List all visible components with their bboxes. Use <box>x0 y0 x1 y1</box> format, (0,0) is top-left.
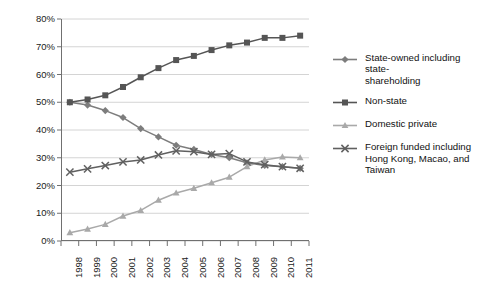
data-point-square <box>262 35 268 41</box>
data-point-diamond <box>341 56 348 63</box>
y-tick-label: 20% <box>36 181 55 191</box>
y-tick-label: 10% <box>36 208 55 218</box>
y-tick-label: 50% <box>36 97 55 107</box>
x-tick-label: 2003 <box>162 257 172 278</box>
x-tick-label: 2009 <box>269 257 279 278</box>
x-tick-label: 2000 <box>109 257 119 278</box>
y-tick-label: 60% <box>36 70 55 80</box>
y-tick-label: 30% <box>36 153 55 163</box>
x-tick-label: 2001 <box>127 257 137 278</box>
data-point-square <box>244 40 250 46</box>
legend-key-square-icon <box>332 96 358 109</box>
x-tick-label: 1999 <box>92 257 102 278</box>
data-point-diamond <box>119 114 126 121</box>
legend-label: Domestic private <box>365 118 437 129</box>
data-point-square <box>342 100 348 106</box>
data-point-square <box>102 92 108 98</box>
series-1 <box>67 33 303 106</box>
legend-label: Non-state <box>365 95 407 106</box>
legend-item-non-state: Non-state <box>332 95 484 109</box>
data-point-square <box>191 53 197 59</box>
data-point-square <box>209 47 215 53</box>
legend-label: State-owned including state- shareholdin… <box>365 52 484 86</box>
y-tick-label: 70% <box>36 42 55 52</box>
data-point-square <box>155 65 161 71</box>
x-tick-label: 2002 <box>145 257 155 278</box>
data-point-square <box>279 35 285 41</box>
x-tick-label: 2011 <box>304 258 314 278</box>
x-tick-label: 2007 <box>233 257 243 278</box>
data-point-square <box>85 96 91 102</box>
data-point-diamond <box>137 125 144 132</box>
legend-key-triangle-icon <box>332 119 358 132</box>
y-tick-label: 0% <box>41 236 55 246</box>
data-point-square <box>297 33 303 39</box>
data-point-diamond <box>84 101 91 108</box>
x-tick-label: 1998 <box>74 257 84 278</box>
x-tick-label: 2004 <box>180 257 190 278</box>
x-tick-label: 2006 <box>216 257 226 278</box>
series-lines <box>61 19 309 241</box>
x-tick-label: 2008 <box>251 257 261 278</box>
legend-item-state-owned: State-owned including state- shareholdin… <box>332 52 484 86</box>
x-tick-label: 2005 <box>198 257 208 278</box>
chart-legend: State-owned including state- shareholdin… <box>332 52 484 184</box>
data-point-triangle <box>226 174 233 180</box>
legend-label: Foreign funded including Hong Kong, Maca… <box>365 141 471 175</box>
line-chart: 0%10%20%30%40%50%60%70%80% 1998199920002… <box>0 0 489 286</box>
data-point-square <box>226 42 232 48</box>
legend-key-cross-icon <box>332 142 358 155</box>
legend-key-diamond-icon <box>332 53 358 66</box>
y-tick-label: 40% <box>36 125 55 135</box>
data-point-square <box>173 57 179 63</box>
data-point-square <box>120 84 126 90</box>
data-point-square <box>138 74 144 80</box>
plot-area <box>61 19 309 241</box>
legend-item-foreign-funded: Foreign funded including Hong Kong, Maca… <box>332 141 484 175</box>
y-axis-labels: 0%10%20%30%40%50%60%70%80% <box>0 0 55 286</box>
data-point-triangle <box>137 207 144 213</box>
data-point-square <box>67 99 73 105</box>
data-point-diamond <box>102 107 109 114</box>
series-3 <box>66 147 303 176</box>
y-tick-label: 80% <box>36 14 55 24</box>
x-axis-labels: 1998199920002001200220032004200520062007… <box>61 248 309 286</box>
x-tick-label: 2010 <box>286 257 296 278</box>
legend-item-domestic-private: Domestic private <box>332 118 484 132</box>
data-point-diamond <box>155 133 162 140</box>
